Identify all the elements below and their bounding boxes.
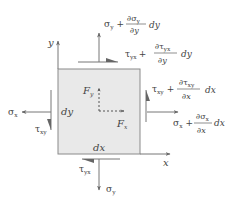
top-shear-diff: dy <box>181 49 193 59</box>
top-shear-arrowhead <box>106 58 118 62</box>
top-shear-den: ∂y <box>158 56 167 65</box>
bottom-shear-label: τyx <box>79 164 91 176</box>
right-normal-num: ∂σx <box>196 112 210 122</box>
top-shear-num: ∂τyx <box>155 42 171 53</box>
dy-label: dy <box>61 106 73 117</box>
bottom-normal-label: σy <box>106 184 116 196</box>
top-normal-den: ∂y <box>130 26 139 35</box>
stress-element-diagram: y x dy dx Fy Fx σy+ ∂σy ∂y dy τyx+ ∂τyx … <box>0 0 235 207</box>
left-shear-arrowhead <box>47 119 51 130</box>
right-normal-label: σx+ <box>173 118 193 129</box>
x-axis-label: x <box>163 157 169 168</box>
y-axis-label: y <box>47 37 54 48</box>
left-normal-label: σx <box>8 107 18 118</box>
top-normal-num: ∂σy <box>127 14 141 25</box>
right-shear-diff: dx <box>205 85 216 95</box>
right-shear-label: τxy+ <box>152 84 174 96</box>
dx-label: dx <box>93 142 105 153</box>
right-shear-num: ∂τxy <box>179 78 195 89</box>
right-shear-arrowhead <box>146 90 150 101</box>
right-normal-den: ∂x <box>197 126 206 135</box>
bottom-shear-arrowhead <box>82 159 94 163</box>
top-normal-diff: dy <box>149 20 161 30</box>
top-normal-label: σy+ <box>104 19 124 31</box>
right-normal-diff: dx <box>214 118 225 128</box>
left-shear-label: τxy <box>35 124 47 136</box>
right-shear-den: ∂x <box>182 92 191 101</box>
top-shear-label: τyx+ <box>125 49 146 61</box>
